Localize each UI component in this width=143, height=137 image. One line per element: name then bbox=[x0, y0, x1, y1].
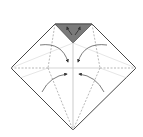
origami-diagram bbox=[0, 0, 143, 137]
